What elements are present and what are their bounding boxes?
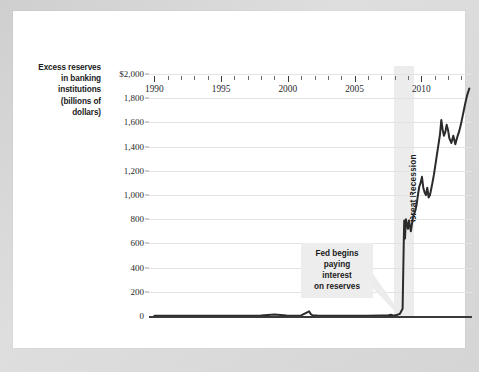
x-axis-tick-label: 1990: [145, 84, 164, 94]
y-axis-title-line-1: Excess reserves: [21, 62, 101, 73]
x-axis-minor-tick: [341, 76, 342, 80]
x-axis-minor-tick: [208, 76, 209, 80]
x-axis-minor-tick: [461, 76, 462, 80]
y-axis-tick-label: $2,000: [119, 69, 144, 79]
y-axis-tick-label: 400: [131, 263, 145, 273]
y-axis-tick-label: 1,400: [124, 142, 144, 152]
x-axis-major-tick: [221, 76, 222, 82]
y-axis-tick-label: 1,600: [124, 117, 144, 127]
x-axis-minor-tick: [234, 76, 235, 80]
fed-annotation-line-1: Fed begins: [308, 248, 366, 259]
x-axis-minor-tick: [435, 76, 436, 80]
x-axis-minor-tick: [448, 76, 449, 80]
x-axis-minor-tick: [274, 76, 275, 80]
x-axis-tick-label: 2010: [412, 84, 431, 94]
x-axis-major-tick: [355, 76, 356, 82]
fed-annotation-line-3: on reserves: [308, 281, 366, 292]
figure-background: Excess reserves in banking institutions …: [0, 0, 479, 372]
y-axis-tick-label: 200: [131, 287, 145, 297]
y-axis-title-line-4: (billions of: [21, 96, 101, 107]
x-axis-minor-tick: [301, 76, 302, 80]
x-axis-minor-tick: [261, 76, 262, 80]
fed-annotation: Fed begins paying interest on reserves: [301, 243, 373, 298]
y-axis-tick-label: 1,000: [124, 190, 144, 200]
x-axis-minor-tick: [315, 76, 316, 80]
x-axis-major-tick: [288, 76, 289, 82]
y-axis-title-line-2: in banking: [21, 73, 101, 84]
y-axis-title: Excess reserves in banking institutions …: [21, 62, 101, 118]
chart-card: Excess reserves in banking institutions …: [13, 11, 465, 348]
y-axis-zero-label: 0: [140, 311, 145, 321]
x-axis-minor-tick: [395, 76, 396, 80]
x-axis-tick-label: 2005: [345, 84, 364, 94]
x-axis-minor-tick: [328, 76, 329, 80]
fed-annotation-line-2: paying interest: [308, 259, 366, 281]
x-axis-line: [149, 316, 472, 318]
x-axis-minor-tick: [408, 76, 409, 80]
x-axis-minor-tick: [194, 76, 195, 80]
x-axis-minor-tick: [381, 76, 382, 80]
y-axis-title-line-3: institutions: [21, 84, 101, 95]
y-axis-tick-label: 600: [131, 238, 145, 248]
x-axis-tick-label: 2000: [278, 84, 297, 94]
y-axis-tick-label: 1,200: [124, 166, 144, 176]
x-axis-minor-tick: [181, 76, 182, 80]
y-axis-title-line-5: dollars): [21, 107, 101, 118]
y-axis-tick-label: 800: [131, 214, 145, 224]
x-axis-major-tick: [421, 76, 422, 82]
x-axis-minor-tick: [248, 76, 249, 80]
x-axis-tick-label: 1995: [212, 84, 231, 94]
x-axis-major-tick: [154, 76, 155, 82]
x-axis-minor-tick: [168, 76, 169, 80]
x-axis-minor-tick: [368, 76, 369, 80]
y-axis-tick-label: 1,800: [124, 93, 144, 103]
